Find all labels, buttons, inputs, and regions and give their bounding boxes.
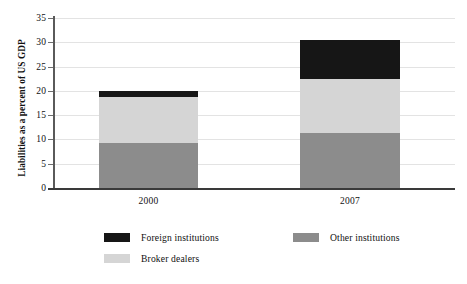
chart-legend: Foreign institutions Other institutions … [0,228,467,280]
gridline [54,18,455,19]
legend-entry-foreign-institutions[interactable]: Foreign institutions [104,232,219,243]
legend-label: Broker dealers [141,253,199,264]
bar-2007[interactable] [300,40,400,188]
y-axis-title: Liabilities as a percent of US GDP [17,23,27,193]
legend-label: Other institutions [330,232,400,243]
bar-segment-broker-dealers[interactable] [300,79,400,133]
legend-swatch-broker-dealers [104,254,130,263]
chart-figure: 35 30 25 20 15 10 5 0 Liabilities as a p… [0,0,467,284]
legend-swatch-foreign-institutions [104,233,130,242]
x-axis-line [48,188,455,190]
legend-swatch-other-institutions [293,233,319,242]
x-tick-label-2007: 2007 [300,196,400,207]
bar-segment-other-institutions[interactable] [99,143,198,188]
legend-entry-broker-dealers[interactable]: Broker dealers [104,253,199,264]
legend-entry-other-institutions[interactable]: Other institutions [293,232,400,243]
bar-segment-broker-dealers[interactable] [99,97,198,143]
bar-segment-foreign-institutions[interactable] [300,40,400,79]
bar-segment-other-institutions[interactable] [300,133,400,188]
y-tick-label: 35 [2,13,46,23]
bar-segment-foreign-institutions[interactable] [99,91,198,97]
y-axis-line [53,16,55,190]
bar-2000[interactable] [99,91,198,188]
legend-label: Foreign institutions [141,232,219,243]
plot-area [54,18,455,188]
x-tick-label-2000: 2000 [99,196,198,207]
